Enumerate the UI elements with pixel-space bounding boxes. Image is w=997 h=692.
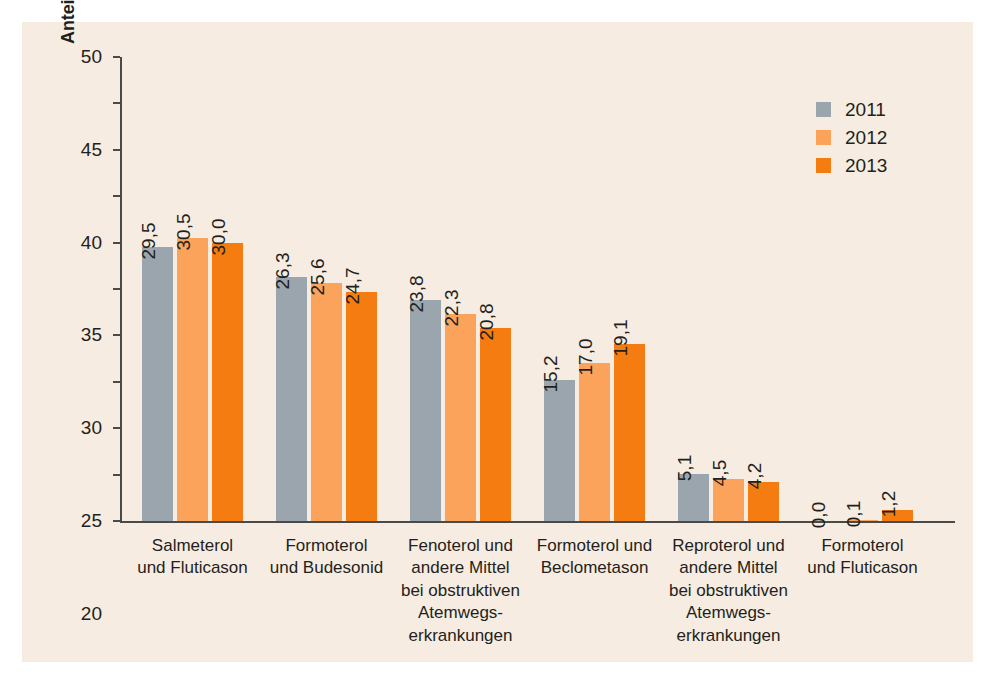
bar[interactable]: 15,2	[544, 380, 575, 521]
bar[interactable]: 23,8	[410, 300, 441, 521]
legend: 201120122013	[816, 95, 887, 179]
bar-group: 5,14,54,2	[678, 57, 779, 521]
bar-value-label: 0,0	[809, 502, 828, 528]
bar[interactable]: 17,0	[579, 363, 610, 521]
bar[interactable]: 4,2	[748, 482, 779, 521]
bar-value-label: 30,5	[174, 213, 193, 250]
legend-label: 2013	[845, 156, 887, 175]
y-axis-tick: 45	[113, 102, 120, 104]
x-axis-category-label: Formoterol und Fluticason	[783, 535, 943, 580]
bar-value-label: 5,1	[675, 454, 694, 480]
y-axis-tick-label: 40	[81, 232, 102, 251]
bar[interactable]: 29,5	[142, 247, 173, 521]
bar[interactable]: 26,3	[276, 277, 307, 521]
bar-group: 15,217,019,1	[544, 57, 645, 521]
y-axis-tick-label: 25	[81, 511, 102, 530]
bar[interactable]: 4,5	[713, 479, 744, 521]
bar-value-label: 4,2	[745, 463, 764, 489]
bar[interactable]: 22,3	[445, 314, 476, 521]
bar-value-label: 24,7	[343, 267, 362, 304]
y-axis-tick: 40	[113, 149, 120, 151]
y-axis-tick: 0	[113, 520, 120, 522]
bar[interactable]: 1,2	[882, 510, 913, 521]
legend-item[interactable]: 2013	[816, 151, 887, 179]
bar[interactable]: 25,6	[311, 283, 342, 521]
bar[interactable]: 5,1	[678, 474, 709, 521]
figure: Anteil an verordneten DDD (%) 0510152025…	[0, 0, 997, 692]
bar-value-label: 26,3	[273, 252, 292, 289]
bar[interactable]: 0,1	[847, 520, 878, 521]
legend-label: 2011	[845, 100, 886, 119]
legend-swatch	[816, 130, 831, 145]
bar-value-label: 22,3	[442, 290, 461, 327]
bar-value-label: 1,2	[879, 491, 898, 517]
y-axis-tick-label: 45	[81, 139, 102, 158]
y-axis-tick: 20	[113, 334, 120, 336]
y-axis-tick: 15	[113, 381, 120, 383]
y-axis-tick-label: 50	[81, 47, 102, 66]
y-axis-tick-label: 30	[81, 418, 102, 437]
bar-group: 26,325,624,7	[276, 57, 377, 521]
y-axis-tick-label: 20	[81, 603, 102, 622]
bar[interactable]: 20,8	[480, 328, 511, 521]
y-axis-title-text: Anteil an verordneten DDD (%)	[58, 0, 78, 44]
legend-item[interactable]: 2011	[816, 95, 887, 123]
chart-panel: Anteil an verordneten DDD (%) 0510152025…	[22, 22, 973, 662]
bar-value-label: 29,5	[139, 223, 158, 260]
x-axis-line	[120, 521, 955, 523]
y-axis-title: Anteil an verordneten DDD (%)	[58, 0, 84, 44]
bar-group: 23,822,320,8	[410, 57, 511, 521]
y-axis-tick: 5	[113, 474, 120, 476]
bar-group: 29,530,530,0	[142, 57, 243, 521]
y-axis-tick: 50	[113, 56, 120, 58]
bar-value-label: 30,0	[209, 218, 228, 255]
bar-value-label: 4,5	[710, 460, 729, 486]
bar-value-label: 25,6	[308, 259, 327, 296]
y-axis-line	[120, 57, 122, 521]
bar-value-label: 17,0	[576, 339, 595, 376]
bar-value-label: 0,1	[844, 501, 863, 527]
y-axis-tick: 30	[113, 242, 120, 244]
y-axis-tick: 10	[113, 427, 120, 429]
legend-swatch	[816, 102, 831, 117]
y-axis-tick-label: 35	[81, 325, 102, 344]
bar-value-label: 23,8	[407, 276, 426, 313]
caption-strip	[26, 676, 626, 692]
bar-value-label: 15,2	[541, 355, 560, 392]
bar[interactable]: 30,5	[177, 238, 208, 521]
y-axis-tick: 25	[113, 288, 120, 290]
bar[interactable]: 30,0	[212, 243, 243, 521]
bar[interactable]: 24,7	[346, 292, 377, 521]
bar-value-label: 19,1	[611, 319, 630, 356]
y-axis-tick: 35	[113, 195, 120, 197]
bar-value-label: 20,8	[477, 303, 496, 340]
legend-swatch	[816, 158, 831, 173]
legend-item[interactable]: 2012	[816, 123, 887, 151]
legend-label: 2012	[845, 128, 887, 147]
bar[interactable]: 19,1	[614, 344, 645, 521]
